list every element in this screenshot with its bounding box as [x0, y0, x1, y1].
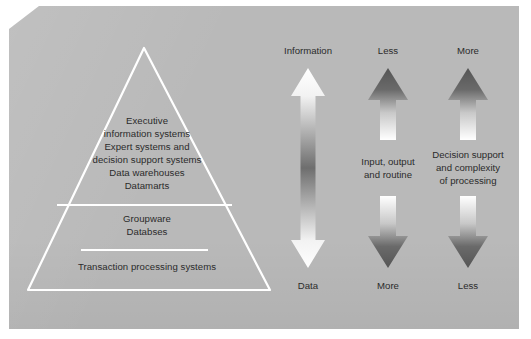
pyramid-tier-bottom-label: Transaction processing systems — [18, 260, 276, 273]
arrow-column-decision-middle-label: Decision support and complexity of proce… — [416, 148, 520, 187]
arrow-column-decision-support: More — [416, 44, 520, 292]
pyramid-tier-middle-label: Groupware Databses — [18, 212, 276, 238]
arrow-column-decision-top-label: More — [416, 44, 520, 57]
diagram-figure: Executive information systems Expert sys… — [0, 0, 531, 339]
pyramid-tier-top-label: Executive information systems Expert sys… — [18, 114, 276, 193]
pyramid: Executive information systems Expert sys… — [18, 38, 276, 300]
arrow-column-decision-bottom-label: Less — [416, 279, 520, 292]
